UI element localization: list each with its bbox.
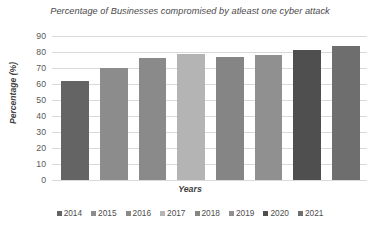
- gridline-0: [52, 180, 367, 181]
- legend-label-2016: 2016: [133, 209, 151, 217]
- legend-item-2016[interactable]: 2016: [126, 209, 151, 217]
- legend-label-2014: 2014: [64, 209, 82, 217]
- chart-title: Percentage of Businesses compromised by …: [0, 6, 380, 16]
- bar-2020[interactable]: [293, 50, 321, 180]
- legend-label-2017: 2017: [167, 209, 185, 217]
- y-tick-label-60: 60: [18, 80, 46, 89]
- legend-swatch-icon-2015: [91, 211, 96, 216]
- bar-slot-2017: [172, 36, 211, 180]
- bar-2019[interactable]: [255, 55, 283, 180]
- legend-item-2017[interactable]: 2017: [160, 209, 185, 217]
- y-tick-label-90: 90: [18, 32, 46, 41]
- legend-label-2015: 2015: [98, 209, 116, 217]
- legend-swatch-icon-2018: [195, 211, 200, 216]
- chart-legend: 20142015201620172018201920202021: [0, 209, 380, 217]
- legend-item-2015[interactable]: 2015: [91, 209, 116, 217]
- legend-item-2021[interactable]: 2021: [298, 209, 323, 217]
- bar-2017[interactable]: [177, 54, 205, 180]
- y-tick-label-80: 80: [18, 48, 46, 57]
- bar-slot-2018: [211, 36, 250, 180]
- y-axis-title: Percentage (%): [8, 53, 18, 133]
- bar-slot-2021: [326, 36, 365, 180]
- bar-slot-2016: [133, 36, 172, 180]
- legend-label-2020: 2020: [270, 209, 288, 217]
- bar-2015[interactable]: [100, 68, 128, 180]
- bar-series: [52, 36, 367, 180]
- y-tick-label-40: 40: [18, 112, 46, 121]
- legend-swatch-icon-2016: [126, 211, 131, 216]
- legend-label-2019: 2019: [236, 209, 254, 217]
- y-tick-label-20: 20: [18, 144, 46, 153]
- bar-chart: Percentage of Businesses compromised by …: [0, 0, 380, 235]
- legend-label-2021: 2021: [305, 209, 323, 217]
- legend-swatch-icon-2014: [57, 211, 62, 216]
- legend-swatch-icon-2019: [229, 211, 234, 216]
- plot-area: [52, 36, 367, 180]
- legend-item-2018[interactable]: 2018: [195, 209, 220, 217]
- x-axis-title: Years: [0, 184, 380, 194]
- bar-2021[interactable]: [332, 46, 360, 180]
- legend-swatch-icon-2020: [263, 211, 268, 216]
- y-tick-label-50: 50: [18, 96, 46, 105]
- bar-2016[interactable]: [139, 58, 167, 180]
- bar-slot-2019: [249, 36, 288, 180]
- bar-slot-2020: [288, 36, 327, 180]
- legend-item-2019[interactable]: 2019: [229, 209, 254, 217]
- legend-item-2014[interactable]: 2014: [57, 209, 82, 217]
- bar-2014[interactable]: [61, 81, 89, 180]
- bar-slot-2015: [95, 36, 134, 180]
- legend-item-2020[interactable]: 2020: [263, 209, 288, 217]
- bar-2018[interactable]: [216, 57, 244, 180]
- y-tick-label-70: 70: [18, 64, 46, 73]
- y-tick-label-30: 30: [18, 128, 46, 137]
- bar-slot-2014: [56, 36, 95, 180]
- legend-swatch-icon-2017: [160, 211, 165, 216]
- legend-swatch-icon-2021: [298, 211, 303, 216]
- legend-label-2018: 2018: [202, 209, 220, 217]
- y-tick-label-10: 10: [18, 160, 46, 169]
